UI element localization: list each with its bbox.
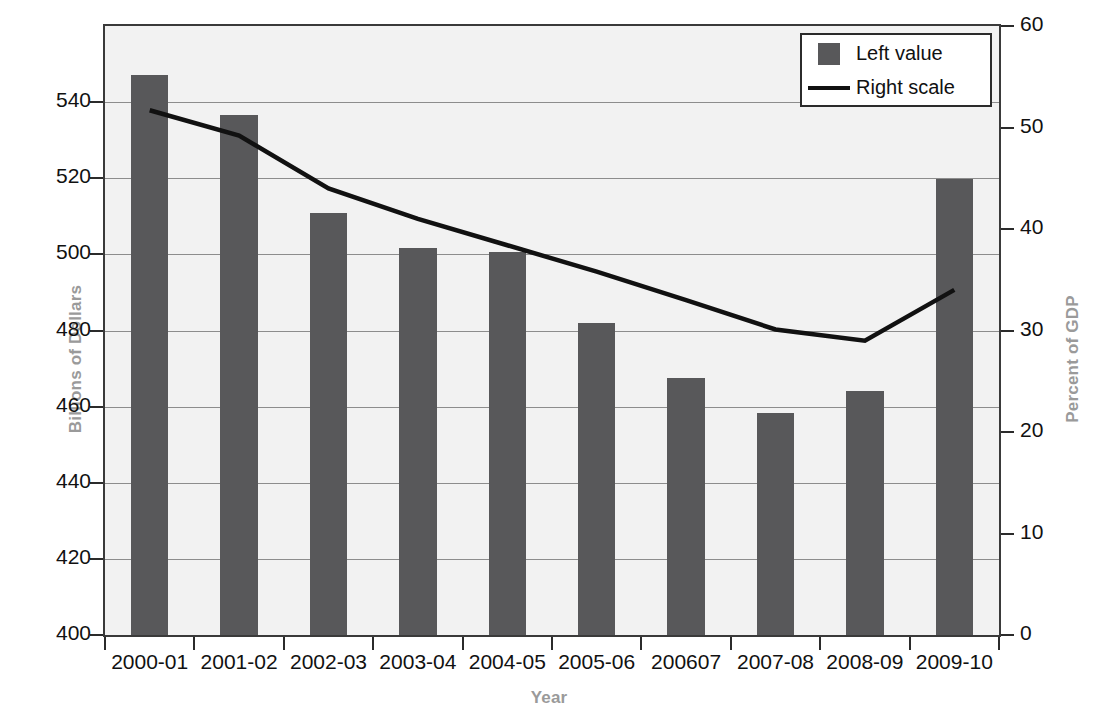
x-axis-tick (551, 637, 553, 650)
y-axis-left-tick (90, 406, 103, 408)
y-axis-left-tick (90, 253, 103, 255)
x-axis-tick-label: 2001-02 (194, 650, 283, 674)
y-axis-left-tick-label: 440 (56, 469, 91, 493)
x-axis-tick-label: 2002-03 (284, 650, 373, 674)
y-axis-left-tick-label: 500 (56, 240, 91, 264)
x-axis-tick (640, 637, 642, 650)
chart-legend: Left value Right scale (800, 33, 992, 107)
y-axis-left-tick (90, 330, 103, 332)
y-axis-right-tick-label: 10 (1020, 520, 1043, 544)
x-axis-tick (372, 637, 374, 650)
y-axis-right-tick (1001, 634, 1014, 636)
x-axis-tick-label: 2003-04 (373, 650, 462, 674)
y-axis-right-tick-label: 40 (1020, 215, 1043, 239)
y-axis-right-tick (1001, 228, 1014, 230)
y-axis-right-tick-label: 30 (1020, 317, 1043, 341)
x-axis-tick-label: 2004-05 (463, 650, 552, 674)
x-axis-tick-label: 2000-01 (105, 650, 194, 674)
y-axis-right-tick-label: 60 (1020, 12, 1043, 36)
y-axis-left-tick-label: 400 (56, 621, 91, 645)
y-axis-left-tick (90, 177, 103, 179)
y-axis-right-title: Percent of GDP (1062, 295, 1082, 423)
y-axis-left-tick-label: 520 (56, 164, 91, 188)
y-axis-right-tick-label: 20 (1020, 418, 1043, 442)
y-axis-left-tick-label: 460 (56, 393, 91, 417)
y-axis-left-tick (90, 634, 103, 636)
legend-entry-left-value: Left value (802, 37, 990, 70)
y-axis-right-tick (1001, 25, 1014, 27)
y-axis-left-tick-label: 480 (56, 317, 91, 341)
y-axis-left-tick (90, 101, 103, 103)
y-axis-right-tick (1001, 330, 1014, 332)
legend-label-left-value: Left value (856, 42, 943, 65)
x-axis-tick-label: 2005-06 (552, 650, 641, 674)
x-axis-tick (193, 637, 195, 650)
y-axis-right-tick-label: 0 (1020, 621, 1032, 645)
chart-figure: Billions of Dollars Percent of GDP Year … (0, 0, 1098, 718)
y-axis-left-tick (90, 558, 103, 560)
right-scale-polyline (150, 110, 955, 340)
y-axis-left-tick (90, 482, 103, 484)
y-axis-right-tick (1001, 533, 1014, 535)
x-axis-tick-label: 2008-09 (820, 650, 909, 674)
legend-line-icon (802, 86, 856, 90)
x-axis-title: Year (0, 688, 1098, 708)
x-axis-tick-label: 200607 (641, 650, 730, 674)
x-axis-tick (998, 637, 1000, 650)
x-axis-tick (819, 637, 821, 650)
legend-entry-right-scale: Right scale (802, 71, 990, 104)
plot-area (103, 24, 1001, 637)
line-series (105, 26, 999, 635)
legend-square-icon (802, 43, 856, 65)
x-axis-tick (283, 637, 285, 650)
y-axis-left-tick-label: 420 (56, 545, 91, 569)
x-axis-tick-label: 2009-10 (910, 650, 999, 674)
y-axis-right-tick (1001, 127, 1014, 129)
x-axis-tick (104, 637, 106, 650)
x-axis-tick-label: 2007-08 (731, 650, 820, 674)
legend-label-right-scale: Right scale (856, 76, 955, 99)
y-axis-left-tick-label: 540 (56, 88, 91, 112)
y-axis-right-tick (1001, 431, 1014, 433)
x-axis-tick (462, 637, 464, 650)
x-axis-tick (730, 637, 732, 650)
y-axis-right-tick-label: 50 (1020, 114, 1043, 138)
x-axis-tick (909, 637, 911, 650)
